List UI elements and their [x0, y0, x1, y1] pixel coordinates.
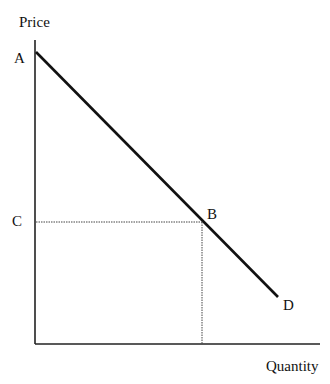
demand-line-ad [36, 52, 278, 297]
demand-diagram [0, 0, 330, 384]
point-c-label: C [12, 214, 22, 229]
point-d-label: D [283, 298, 294, 313]
point-b-label: B [207, 207, 217, 222]
point-a-label: A [14, 51, 25, 66]
x-axis-label: Quantity [266, 359, 319, 374]
y-axis-label: Price [19, 15, 50, 30]
